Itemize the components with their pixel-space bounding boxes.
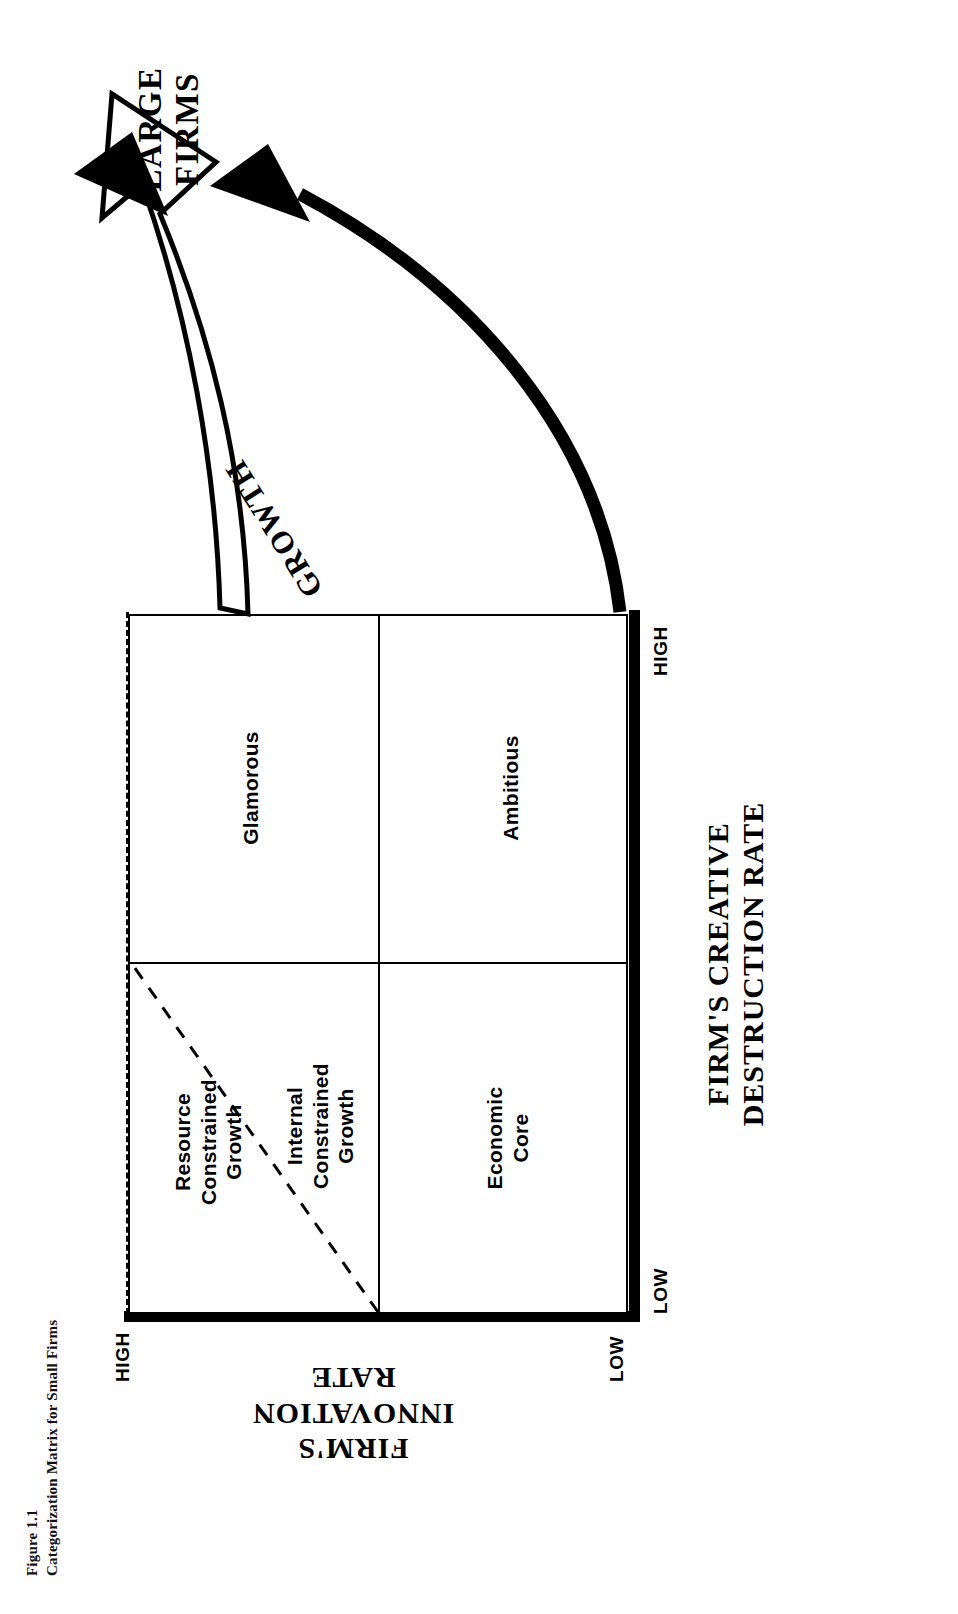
y-axis-title-line: RATE — [143, 1361, 563, 1396]
quadrant-line: Constrained — [308, 986, 334, 1266]
x-axis-bar — [629, 610, 640, 1322]
quadrant-glamorous: Glamorous — [238, 614, 264, 962]
quadrant-line: Internal — [282, 986, 308, 1266]
quadrant-economic-core: Economic Core — [482, 964, 533, 1312]
y-axis-title: FIRM'S INNOVATION RATE — [143, 1361, 563, 1467]
figure-number: Figure 1.1 — [22, 1320, 42, 1576]
quadrant-line: Ambitious — [498, 614, 524, 962]
y-tick-high: HIGH — [112, 1332, 134, 1382]
large-firms-line: FIRMS — [169, 24, 206, 234]
large-firms-label: LARGE FIRMS — [132, 24, 206, 234]
figure-caption: Figure 1.1 Categorization Matrix for Sma… — [22, 1320, 63, 1576]
quadrant-resource-constrained-growth: Resource Constrained Growth — [170, 992, 247, 1292]
x-axis-title: FIRM'S CREATIVE DESTRUCTION RATE — [700, 614, 771, 1314]
y-tick-low: LOW — [606, 1336, 628, 1382]
figure-title: Categorization Matrix for Small Firms — [42, 1320, 62, 1576]
quadrant-internal-constrained-growth: Internal Constrained Growth — [282, 986, 359, 1266]
x-axis-title-line: FIRM'S CREATIVE — [700, 614, 735, 1314]
x-axis-title-line: DESTRUCTION RATE — [735, 614, 770, 1314]
quadrant-line: Growth — [333, 986, 359, 1266]
growth-arrow-label: GROWTH — [218, 453, 331, 604]
y-axis-title-line: FIRM'S — [143, 1432, 563, 1467]
categorization-matrix: Resource Constrained Growth Internal Con… — [128, 614, 628, 1314]
quadrant-ambitious: Ambitious — [498, 614, 524, 962]
quadrant-line: Economic — [482, 964, 508, 1312]
x-tick-low: LOW — [650, 1268, 672, 1314]
quadrant-line: Core — [508, 964, 534, 1312]
figure-stage: Figure 1.1 Categorization Matrix for Sma… — [0, 0, 958, 1614]
quadrant-line: Glamorous — [238, 614, 264, 962]
quadrant-line: Growth — [221, 992, 247, 1292]
x-tick-high: HIGH — [650, 626, 672, 676]
quadrant-line: Constrained — [196, 992, 222, 1292]
y-axis-title-line: INNOVATION — [143, 1396, 563, 1431]
large-firms-line: LARGE — [132, 24, 169, 234]
quadrant-line: Resource — [170, 992, 196, 1292]
